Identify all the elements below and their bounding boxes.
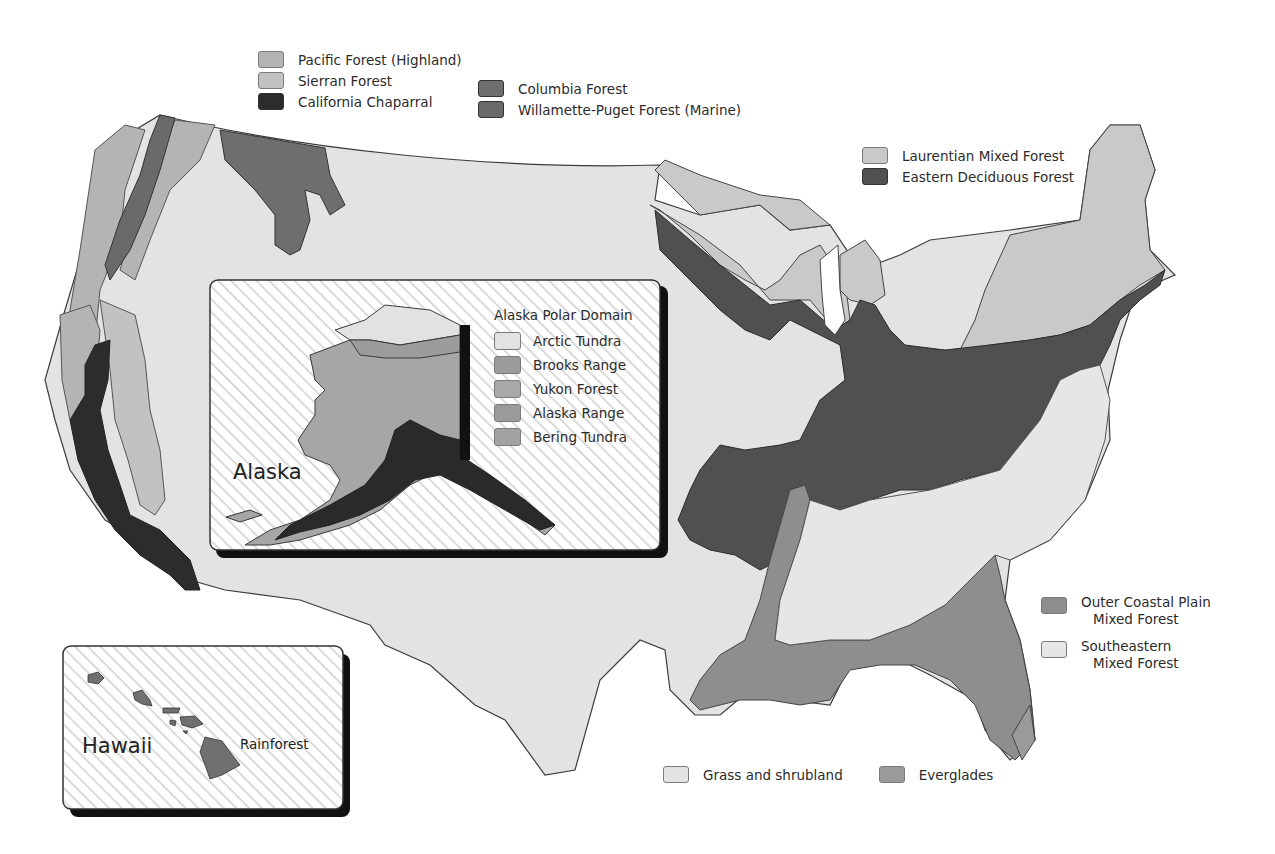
legend-item-pacific-forest: Pacific Forest (Highland) [258, 49, 462, 70]
legend-item-columbia-forest: Columbia Forest [478, 78, 741, 99]
legend-west-2: Columbia Forest Willamette-Puget Forest … [478, 78, 741, 120]
ecoregion-map [0, 0, 1275, 854]
legend-item-alaska-range: Alaska Range [494, 401, 633, 425]
swatch-california-chaparral [258, 93, 284, 110]
legend-item-willamette-puget: Willamette-Puget Forest (Marine) [478, 99, 741, 120]
legend-item-everglades: Everglades [879, 764, 994, 785]
swatch-pacific-forest [258, 51, 284, 68]
swatch-laurentian [862, 147, 888, 164]
legend-label: Brooks Range [533, 357, 626, 373]
legend-label: Alaska Range [533, 405, 624, 421]
legend-label: Willamette-Puget Forest (Marine) [518, 102, 741, 118]
swatch-yukon-forest [494, 380, 521, 398]
legend-label-line1: Outer Coastal Plain [1081, 594, 1211, 611]
alaska-legend: Alaska Polar Domain Arctic Tundra Brooks… [494, 307, 633, 449]
legend-bottom: Grass and shrubland Everglades [663, 764, 993, 785]
alaska-title: Alaska [233, 460, 302, 484]
legend-label: Yukon Forest [533, 381, 618, 397]
legend-label: Grass and shrubland [703, 767, 843, 783]
legend-northeast: Laurentian Mixed Forest Eastern Deciduou… [862, 145, 1074, 187]
swatch-grass-shrubland [663, 766, 689, 783]
legend-item-sierran-forest: Sierran Forest [258, 70, 462, 91]
legend-label: Everglades [919, 767, 994, 783]
swatch-southeastern-mixed [1041, 641, 1067, 658]
legend-west: Pacific Forest (Highland) Sierran Forest… [258, 49, 462, 112]
swatch-sierran-forest [258, 72, 284, 89]
swatch-everglades [879, 766, 905, 783]
legend-label-line2: Mixed Forest [1081, 655, 1179, 672]
swatch-willamette-puget [478, 101, 504, 118]
legend-label: Columbia Forest [518, 81, 627, 97]
swatch-arctic-tundra [494, 332, 521, 350]
legend-southeast: Outer Coastal Plain Mixed Forest Southea… [1041, 594, 1211, 678]
legend-item-southeastern-mixed: Southeastern Mixed Forest [1041, 638, 1211, 678]
legend-label: Arctic Tundra [533, 333, 621, 349]
legend-item-brooks-range: Brooks Range [494, 353, 633, 377]
island-molokai [163, 708, 180, 713]
legend-item-bering-tundra: Bering Tundra [494, 425, 633, 449]
legend-item-yukon-forest: Yukon Forest [494, 377, 633, 401]
legend-label-line1: Southeastern [1081, 638, 1179, 655]
legend-label: Bering Tundra [533, 429, 627, 445]
legend-label: Sierran Forest [298, 73, 392, 89]
swatch-columbia-forest [478, 80, 504, 97]
alaska-legend-title: Alaska Polar Domain [494, 307, 633, 327]
hawaii-rainforest-label: Rainforest [240, 736, 309, 752]
legend-item-laurentian: Laurentian Mixed Forest [862, 145, 1074, 166]
legend-label: Laurentian Mixed Forest [902, 148, 1064, 164]
legend-label: Eastern Deciduous Forest [902, 169, 1074, 185]
hawaii-title: Hawaii [82, 734, 152, 758]
swatch-bering-tundra [494, 428, 521, 446]
legend-item-outer-coastal-plain: Outer Coastal Plain Mixed Forest [1041, 594, 1211, 634]
legend-item-arctic-tundra: Arctic Tundra [494, 329, 633, 353]
swatch-eastern-deciduous [862, 168, 888, 185]
swatch-brooks-range [494, 356, 521, 374]
legend-label-group: Southeastern Mixed Forest [1081, 638, 1179, 672]
swatch-alaska-range [494, 404, 521, 422]
legend-label: Pacific Forest (Highland) [298, 52, 462, 68]
legend-item-california-chaparral: California Chaparral [258, 91, 462, 112]
legend-label-group: Outer Coastal Plain Mixed Forest [1081, 594, 1211, 628]
swatch-outer-coastal-plain [1041, 597, 1067, 614]
legend-label: California Chaparral [298, 94, 432, 110]
legend-item-grass-shrubland: Grass and shrubland [663, 764, 843, 785]
hawaii-inset [63, 646, 350, 817]
legend-item-eastern-deciduous: Eastern Deciduous Forest [862, 166, 1074, 187]
legend-label-line2: Mixed Forest [1081, 611, 1211, 628]
